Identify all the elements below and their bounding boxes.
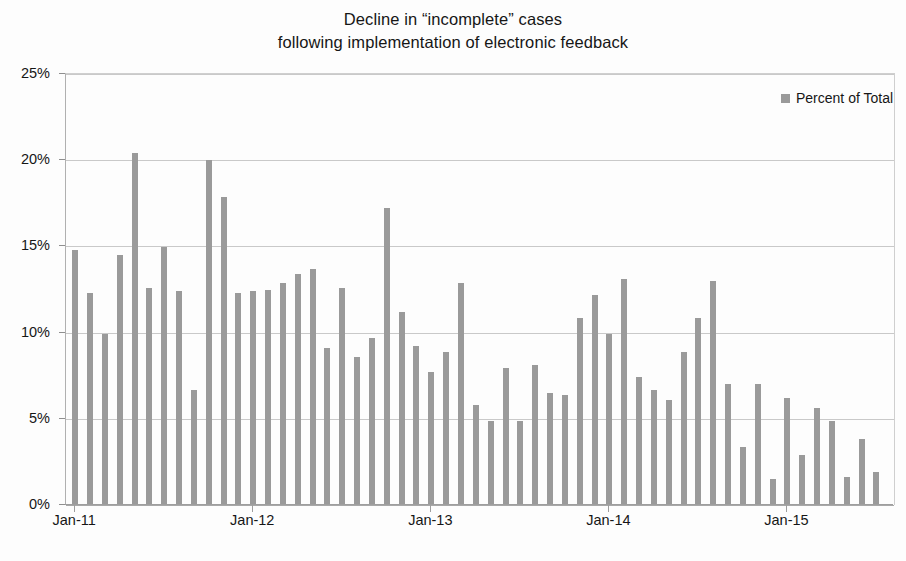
bar — [873, 472, 879, 505]
x-axis-tick-mark — [430, 505, 431, 512]
bar — [235, 293, 241, 505]
bar — [102, 334, 108, 505]
chart-title: Decline in “incomplete” cases following … — [0, 8, 906, 54]
bar — [458, 283, 464, 505]
bar — [221, 197, 227, 505]
bar — [72, 250, 78, 505]
bar — [146, 288, 152, 505]
bar — [161, 247, 167, 505]
y-axis-tick-mark — [59, 245, 65, 246]
bar — [606, 334, 612, 505]
bar — [517, 421, 523, 505]
bar — [443, 352, 449, 505]
x-axis-tick-label: Jan-12 — [230, 512, 274, 528]
bar — [176, 291, 182, 505]
y-axis-tick-mark — [59, 159, 65, 160]
bar — [295, 274, 301, 505]
x-axis-tick-mark — [608, 505, 609, 512]
y-axis-tick-mark — [59, 332, 65, 333]
bar — [265, 290, 271, 506]
y-axis-tick-label: 10% — [21, 324, 50, 340]
bar — [695, 318, 701, 505]
bar — [473, 405, 479, 505]
y-axis-tick-mark — [59, 73, 65, 74]
gridline-0% — [66, 505, 894, 506]
y-axis-tick-label: 0% — [29, 496, 50, 512]
y-axis-tick-label: 20% — [21, 151, 50, 167]
bar — [87, 293, 93, 505]
bar — [710, 281, 716, 505]
bar — [829, 421, 835, 505]
bar — [532, 365, 538, 505]
bar — [117, 255, 123, 505]
x-axis-tick-label: Jan-15 — [764, 512, 808, 528]
y-axis-tick-label: 5% — [29, 410, 50, 426]
y-axis-tick-label: 25% — [21, 65, 50, 81]
x-axis-line — [65, 504, 893, 505]
x-axis-tick-label: Jan-11 — [53, 512, 96, 528]
bar — [636, 377, 642, 505]
bar — [384, 208, 390, 505]
chart-title-line-2: following implementation of electronic f… — [0, 31, 906, 54]
bar — [399, 312, 405, 505]
bar — [503, 368, 509, 505]
bar — [859, 439, 865, 505]
y-axis-tick-label: 15% — [21, 237, 50, 253]
x-axis-tick-label: Jan-13 — [408, 512, 452, 528]
x-axis-tick-mark — [786, 505, 787, 512]
bar — [369, 338, 375, 505]
bar — [310, 269, 316, 505]
x-axis-tick-mark — [74, 505, 75, 512]
y-axis-labels: 0%5%10%15%20%25% — [0, 73, 58, 504]
bar — [428, 372, 434, 505]
y-axis-tick-mark — [59, 504, 65, 505]
bar — [191, 390, 197, 506]
bar — [132, 153, 138, 505]
bar — [755, 384, 761, 505]
bar — [621, 279, 627, 505]
x-axis-tick-mark — [252, 505, 253, 512]
bar — [206, 160, 212, 505]
bar — [651, 390, 657, 505]
bar — [770, 479, 776, 505]
chart-title-line-1: Decline in “incomplete” cases — [0, 8, 906, 31]
bar — [844, 477, 850, 505]
bar — [354, 357, 360, 505]
bar — [666, 400, 672, 505]
x-axis-tick-label: Jan-14 — [586, 512, 630, 528]
plot-area — [65, 73, 895, 505]
bar — [339, 288, 345, 505]
y-axis-tick-mark — [59, 418, 65, 419]
bar — [562, 395, 568, 505]
bar — [547, 393, 553, 505]
bar — [324, 348, 330, 505]
bar — [784, 398, 790, 505]
bar — [280, 283, 286, 505]
bar — [413, 346, 419, 505]
bar — [577, 318, 583, 505]
bar — [799, 455, 805, 505]
bar — [250, 291, 256, 505]
bar-chart: Decline in “incomplete” cases following … — [0, 0, 906, 561]
bar — [488, 421, 494, 505]
bar — [814, 408, 820, 505]
bar — [725, 384, 731, 505]
bar — [681, 352, 687, 505]
bar — [740, 447, 746, 505]
bars-layer — [66, 74, 894, 505]
bar — [592, 295, 598, 505]
